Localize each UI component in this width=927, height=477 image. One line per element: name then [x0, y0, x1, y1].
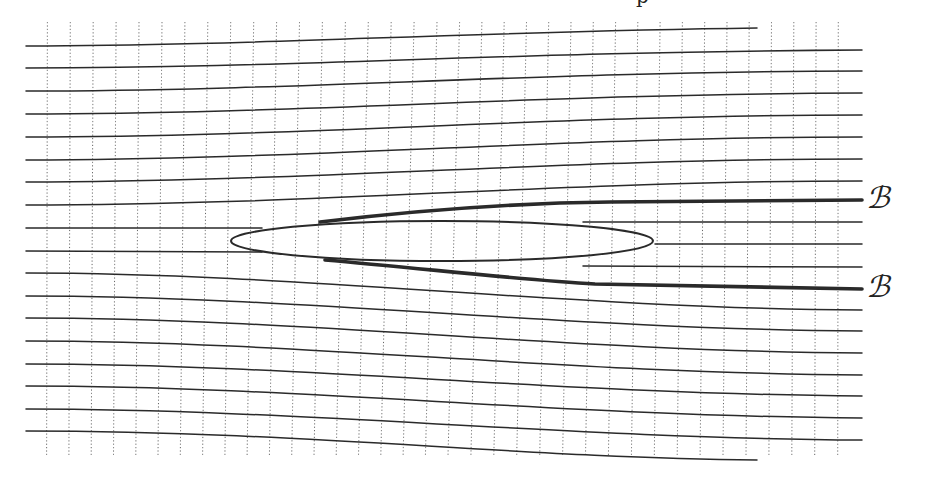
grid-line — [359, 22, 369, 456]
grid-line — [91, 22, 93, 456]
cut-off-caption-glyph: p — [636, 0, 649, 6]
grid-line — [631, 22, 637, 456]
grid-line — [381, 22, 391, 456]
grid-line — [792, 22, 794, 456]
streamline-diagram — [0, 0, 927, 477]
grid-line — [180, 22, 185, 456]
deformed-grid-vertical-lines — [47, 22, 839, 456]
grid-line — [563, 22, 571, 456]
grid-line — [586, 22, 594, 456]
grid-line — [723, 22, 727, 456]
streamline — [26, 431, 757, 460]
streamline — [26, 409, 862, 440]
label-b-upper: ℬ — [866, 183, 890, 213]
streamline — [26, 341, 862, 375]
streamline — [583, 266, 862, 267]
grid-line — [494, 22, 504, 456]
streamline — [26, 50, 862, 68]
boundary-streamline — [325, 260, 862, 289]
grid-line — [47, 22, 48, 456]
streamline — [26, 364, 862, 396]
streamline — [26, 115, 862, 137]
streamline — [26, 71, 862, 91]
streamline — [26, 93, 862, 114]
grid-line — [69, 22, 70, 456]
grid-line — [403, 22, 414, 456]
grid-line — [136, 22, 139, 456]
streamline — [26, 318, 862, 353]
label-b-lower: ℬ — [866, 272, 890, 302]
boundary-streamline — [320, 200, 862, 222]
grid-line — [425, 22, 437, 456]
streamlines — [26, 28, 862, 460]
streamline — [26, 137, 862, 160]
streamline — [26, 296, 862, 331]
grid-line — [314, 22, 322, 456]
grid-line — [540, 22, 549, 456]
grid-line — [203, 22, 208, 456]
grid-line — [292, 22, 300, 456]
grid-line — [114, 22, 117, 456]
grid-line — [448, 22, 460, 456]
streamline — [26, 159, 862, 182]
streamline — [26, 251, 262, 252]
grid-line — [608, 22, 615, 456]
grid-line — [769, 22, 772, 456]
grid-line — [815, 22, 816, 456]
streamline — [26, 28, 757, 46]
grid-line — [700, 22, 705, 456]
streamline — [26, 273, 862, 310]
grid-line — [838, 22, 839, 456]
streamline — [26, 386, 862, 418]
grid-line — [471, 22, 482, 456]
grid-line — [517, 22, 527, 456]
grid-line — [746, 22, 749, 456]
grid-line — [158, 22, 162, 456]
grid-line — [336, 22, 345, 456]
